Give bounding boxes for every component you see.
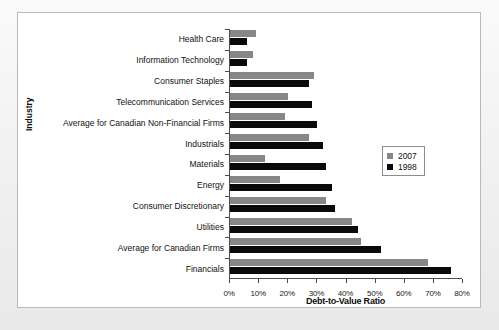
bar-row: Financials xyxy=(229,258,462,279)
bar-2007 xyxy=(230,72,314,79)
x-tick xyxy=(346,279,347,283)
bar-2007 xyxy=(230,113,285,120)
bar-row: Materials xyxy=(229,154,462,175)
bar-1998 xyxy=(230,246,381,253)
bar-2007 xyxy=(230,238,361,245)
y-tick xyxy=(225,71,229,72)
x-tick xyxy=(404,279,405,283)
bar-1998 xyxy=(230,38,247,45)
category-label: Consumer Staples xyxy=(154,76,224,86)
category-label: Utilities xyxy=(197,222,224,232)
y-tick xyxy=(225,175,229,176)
y-tick xyxy=(225,92,229,93)
category-label: Average for Canadian Non-Financial Firms xyxy=(63,118,224,128)
plot-area: 0%10%20%30%40%50%60%70%80% Health CareIn… xyxy=(229,29,462,279)
x-tick xyxy=(287,279,288,283)
y-tick xyxy=(225,217,229,218)
category-label: Health Care xyxy=(179,34,224,44)
bar-row: Telecommunication Services xyxy=(229,92,462,113)
bar-2007 xyxy=(230,93,288,100)
bar-1998 xyxy=(230,80,309,87)
category-label: Energy xyxy=(197,180,224,190)
bar-row: Utilities xyxy=(229,217,462,238)
category-label: Average for Canadian Firms xyxy=(118,243,224,253)
category-label: Information Technology xyxy=(136,55,224,65)
bar-1998 xyxy=(230,101,312,108)
bar-2007 xyxy=(230,197,326,204)
x-tick xyxy=(433,279,434,283)
y-axis-title: Industry xyxy=(24,97,34,131)
bar-1998 xyxy=(230,205,335,212)
bar-1998 xyxy=(230,184,332,191)
chart-panel: Industry 0%10%20%30%40%50%60%70%80% Heal… xyxy=(17,12,481,308)
y-tick xyxy=(225,237,229,238)
y-tick xyxy=(225,154,229,155)
bar-row: Consumer Discretionary xyxy=(229,196,462,217)
bar-2007 xyxy=(230,51,253,58)
chart-legend: 2007 1998 xyxy=(382,146,425,176)
chart-page: Industry 0%10%20%30%40%50%60%70%80% Heal… xyxy=(0,0,499,330)
bar-row: Health Care xyxy=(229,29,462,50)
legend-item: 2007 xyxy=(387,150,417,161)
category-label: Consumer Discretionary xyxy=(133,201,224,211)
bar-row: Information Technology xyxy=(229,50,462,71)
y-tick xyxy=(225,196,229,197)
bar-1998 xyxy=(230,121,317,128)
category-label: Industrials xyxy=(185,139,224,149)
bar-row: Industrials xyxy=(229,133,462,154)
bar-2007 xyxy=(230,218,352,225)
y-tick xyxy=(225,258,229,259)
legend-label-2007: 2007 xyxy=(398,151,417,161)
bar-1998 xyxy=(230,226,358,233)
bar-row: Average for Canadian Non-Financial Firms xyxy=(229,112,462,133)
y-tick xyxy=(225,133,229,134)
legend-swatch-1998 xyxy=(387,164,393,170)
bar-2007 xyxy=(230,176,280,183)
bar-1998 xyxy=(230,142,323,149)
bar-1998 xyxy=(230,59,247,66)
bar-2007 xyxy=(230,259,428,266)
x-tick xyxy=(375,279,376,283)
x-tick xyxy=(462,279,463,283)
bar-2007 xyxy=(230,30,256,37)
x-tick xyxy=(229,279,230,283)
legend-swatch-2007 xyxy=(387,153,393,159)
category-label: Financials xyxy=(186,264,224,274)
bar-2007 xyxy=(230,155,265,162)
bar-2007 xyxy=(230,134,309,141)
category-label: Materials xyxy=(190,159,224,169)
x-tick xyxy=(258,279,259,283)
bar-1998 xyxy=(230,267,451,274)
x-tick xyxy=(316,279,317,283)
y-tick xyxy=(225,50,229,51)
y-tick xyxy=(225,29,229,30)
bar-row: Energy xyxy=(229,175,462,196)
category-label: Telecommunication Services xyxy=(116,97,224,107)
bar-row: Average for Canadian Firms xyxy=(229,237,462,258)
x-axis-title: Debt-to-Value Ratio xyxy=(229,296,462,306)
legend-label-1998: 1998 xyxy=(398,162,417,172)
legend-item: 1998 xyxy=(387,161,417,172)
bar-1998 xyxy=(230,163,326,170)
bar-row: Consumer Staples xyxy=(229,71,462,92)
y-tick xyxy=(225,112,229,113)
